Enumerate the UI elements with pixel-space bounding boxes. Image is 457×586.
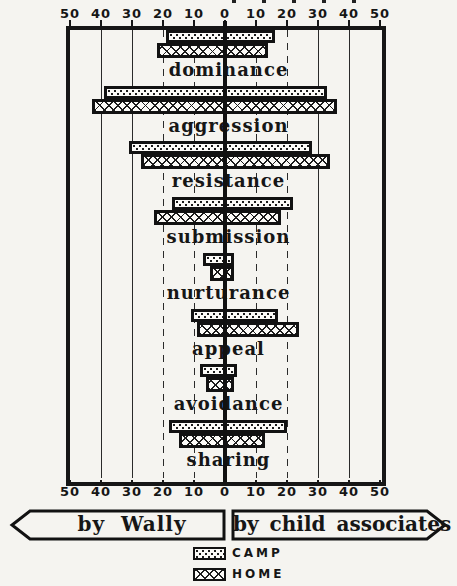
category-label-submission: submission bbox=[0, 226, 457, 247]
axis-tick-label-top-20-right: 20 bbox=[277, 6, 297, 21]
category-label-nurturance: nurturance bbox=[0, 282, 457, 303]
axis-tick-label-bottom-50-right: 50 bbox=[370, 484, 390, 499]
axis-tick-label-bottom-40-right: 40 bbox=[339, 484, 359, 499]
bar-avoidance-home bbox=[206, 377, 234, 392]
cropped-print-fragment bbox=[352, 0, 356, 3]
axis-tickmark-bottom bbox=[255, 480, 257, 486]
axis-tick-label-bottom-20-left: 20 bbox=[153, 484, 173, 499]
axis-tick-label-bottom-40-left: 40 bbox=[91, 484, 111, 499]
category-label-appeal: appeal bbox=[0, 338, 457, 359]
axis-tick-label-top-10-right: 10 bbox=[246, 6, 266, 21]
axis-tickmark-bottom bbox=[193, 480, 195, 486]
axis-tickmark-bottom bbox=[379, 480, 381, 486]
zero-axis-line bbox=[223, 21, 227, 482]
axis-tickmark-top bbox=[255, 20, 257, 26]
cropped-print-fragment bbox=[292, 0, 296, 3]
legend-label-camp: CAMP bbox=[232, 546, 283, 560]
axis-tick-label-top-30-right: 30 bbox=[308, 6, 328, 21]
bar-dominance-home bbox=[157, 43, 269, 58]
axis-tick-label-top-40-right: 40 bbox=[339, 6, 359, 21]
legend-swatch-home bbox=[193, 568, 226, 581]
legend-swatch-camp bbox=[193, 547, 226, 560]
axis-tick-label-bottom-0-center: 0 bbox=[220, 484, 230, 499]
cropped-print-fragment bbox=[262, 0, 266, 3]
category-label-aggression: aggression bbox=[0, 115, 457, 136]
bar-aggression-camp bbox=[104, 86, 327, 99]
bar-submission-camp bbox=[172, 197, 293, 210]
axis-tick-label-top-50-right: 50 bbox=[370, 6, 390, 21]
category-label-dominance: dominance bbox=[0, 59, 457, 80]
axis-tick-label-top-50-left: 50 bbox=[60, 6, 80, 21]
bar-sharing-home bbox=[179, 433, 266, 448]
axis-tickmark-top bbox=[286, 20, 288, 26]
category-label-avoidance: avoidance bbox=[0, 393, 457, 414]
axis-tick-label-bottom-10-left: 10 bbox=[184, 484, 204, 499]
axis-tickmark-bottom bbox=[162, 480, 164, 486]
legend-label-home: HOME bbox=[232, 567, 284, 581]
axis-tickmark-bottom bbox=[348, 480, 350, 486]
axis-tickmark-bottom bbox=[131, 480, 133, 486]
axis-tickmark-top bbox=[69, 20, 71, 26]
right-banner-label: by child associates bbox=[233, 512, 429, 536]
bar-submission-home bbox=[154, 210, 281, 225]
category-label-sharing: sharing bbox=[0, 449, 457, 470]
left-banner-label: by Wally bbox=[40, 512, 224, 536]
axis-tickmark-top bbox=[162, 20, 164, 26]
axis-tickmark-top bbox=[100, 20, 102, 26]
axis-tickmark-top bbox=[131, 20, 133, 26]
axis-tickmark-bottom bbox=[69, 480, 71, 486]
axis-tick-label-top-40-left: 40 bbox=[91, 6, 111, 21]
axis-tick-label-bottom-30-left: 30 bbox=[122, 484, 142, 499]
bar-aggression-home bbox=[92, 99, 337, 114]
cropped-print-fragment bbox=[232, 0, 236, 3]
bar-appeal-home bbox=[197, 322, 299, 337]
category-label-resistance: resistance bbox=[0, 170, 457, 191]
axis-tickmark-top bbox=[348, 20, 350, 26]
cropped-print-fragment bbox=[322, 0, 326, 3]
bar-nurturance-camp bbox=[203, 253, 234, 266]
axis-tick-label-bottom-30-right: 30 bbox=[308, 484, 328, 499]
axis-tick-label-bottom-50-left: 50 bbox=[60, 484, 80, 499]
bar-avoidance-camp bbox=[200, 364, 237, 377]
axis-tick-label-bottom-20-right: 20 bbox=[277, 484, 297, 499]
axis-tick-label-top-30-left: 30 bbox=[122, 6, 142, 21]
bar-nurturance-home bbox=[210, 266, 235, 281]
bar-resistance-camp bbox=[129, 141, 312, 154]
axis-tickmark-top bbox=[193, 20, 195, 26]
axis-tick-label-top-0-center: 0 bbox=[220, 6, 230, 21]
bar-dominance-camp bbox=[166, 30, 275, 43]
axis-tick-label-bottom-10-right: 10 bbox=[246, 484, 266, 499]
axis-tickmark-bottom bbox=[100, 480, 102, 486]
axis-tickmark-top bbox=[317, 20, 319, 26]
bar-appeal-camp bbox=[191, 309, 278, 322]
bar-resistance-home bbox=[141, 154, 330, 169]
axis-tick-label-top-20-left: 20 bbox=[153, 6, 173, 21]
bar-sharing-camp bbox=[169, 420, 287, 433]
axis-tickmark-top bbox=[379, 20, 381, 26]
axis-tickmark-bottom bbox=[286, 480, 288, 486]
axis-tick-label-top-10-left: 10 bbox=[184, 6, 204, 21]
axis-tickmark-bottom bbox=[317, 480, 319, 486]
